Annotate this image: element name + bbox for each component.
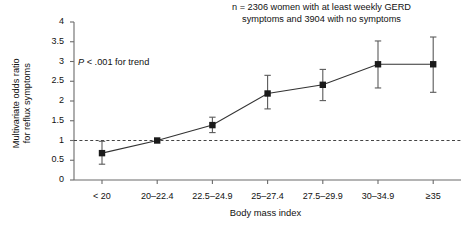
y-tick-label: 2: [38, 95, 64, 105]
y-tick-label: 4: [38, 16, 64, 26]
data-point-marker: [154, 137, 160, 143]
data-point-marker: [430, 61, 436, 67]
y-tick-label: 0: [38, 174, 64, 184]
y-tick-label: 3: [38, 56, 64, 66]
data-point-marker: [264, 90, 270, 96]
data-point-marker: [375, 61, 381, 67]
y-tick-label: 2.5: [38, 75, 64, 85]
data-point-marker: [99, 150, 105, 156]
data-point-marker: [320, 82, 326, 88]
chart-figure: n = 2306 women with at least weekly GERD…: [0, 0, 465, 230]
x-tick-label: ≥35: [398, 191, 465, 201]
y-tick-label: 1.5: [38, 115, 64, 125]
x-tick-marks: [102, 180, 433, 184]
y-tick-label: 1: [38, 135, 64, 145]
y-tick-marks: [70, 22, 74, 180]
error-bars-group: [99, 37, 437, 164]
y-tick-label: 0.5: [38, 154, 64, 164]
data-point-marker: [209, 122, 215, 128]
y-tick-label: 3.5: [38, 36, 64, 46]
axes-group: [70, 22, 461, 184]
